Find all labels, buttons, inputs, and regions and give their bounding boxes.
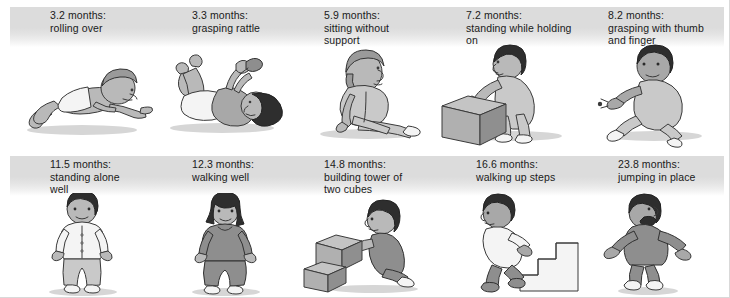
milestone-panel: 3.3 months: grasping rattle — [152, 0, 298, 149]
milestone-panel: 8.2 months: grasping with thumb and fing… — [578, 0, 724, 149]
milestone-caption: 14.8 months: building tower of two cubes — [294, 158, 440, 196]
milestone-panel: 5.9 months: sitting without support — [294, 0, 440, 149]
milestone-caption: 23.8 months: jumping in place — [578, 158, 724, 183]
milestone-panel: 7.2 months: standing while holding on — [436, 0, 582, 149]
baby-sitting-unsupported-illustration — [294, 44, 440, 149]
toddler-walking-well-illustration — [152, 193, 298, 298]
milestone-panel: 14.8 months: building tower of two cubes — [294, 149, 440, 298]
milestone-caption: 11.5 months: standing alone well — [10, 158, 156, 196]
milestone-caption: 5.9 months: sitting without support — [294, 9, 440, 47]
milestone-panel: 23.8 months: jumping in place — [578, 149, 724, 298]
milestone-panel: 16.6 months: walking up steps — [436, 149, 582, 298]
milestone-caption: 12.3 months: walking well — [152, 158, 298, 183]
milestone-panel: 3.2 months: rolling over — [10, 0, 156, 149]
milestone-panel: 11.5 months: standing alone well — [10, 149, 156, 298]
milestone-caption: 7.2 months: standing while holding on — [436, 9, 582, 47]
toddler-stacking-cubes-illustration — [294, 193, 440, 298]
milestone-caption: 3.2 months: rolling over — [10, 9, 156, 34]
milestone-caption: 3.3 months: grasping rattle — [152, 9, 298, 34]
baby-pincer-grasp-illustration — [578, 44, 724, 149]
milestone-caption: 16.6 months: walking up steps — [436, 158, 582, 183]
milestone-row: 3.2 months: rolling over — [0, 0, 730, 149]
baby-supine-grasping-rattle-illustration — [152, 44, 298, 149]
milestone-caption: 8.2 months: grasping with thumb and fing… — [578, 9, 724, 47]
milestones-figure: 3.2 months: rolling over — [0, 0, 730, 298]
baby-prone-rolling-over-illustration — [10, 44, 156, 149]
toddler-jumping-illustration — [578, 193, 724, 298]
toddler-standing-alone-illustration — [10, 193, 156, 298]
toddler-climbing-steps-illustration — [436, 193, 582, 298]
milestone-row: 11.5 months: standing alone well — [0, 149, 730, 298]
milestone-panel: 12.3 months: walking well — [152, 149, 298, 298]
baby-standing-holding-box-illustration — [436, 44, 582, 149]
